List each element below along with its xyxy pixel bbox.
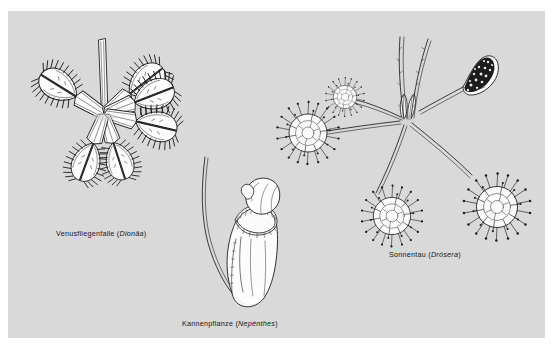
caption-common-name-drosera: Sonnentau ( <box>389 250 431 259</box>
caption-scientific-name-dionaea: Dionäa <box>120 229 144 238</box>
illustration-plate: .ln { fill:none; stroke:#1c1c1c; stroke-… <box>8 11 545 338</box>
botanical-illustration-svg: .ln { fill:none; stroke:#1c1c1c; stroke-… <box>8 11 545 338</box>
sundew-leaf-lower-left <box>361 184 423 247</box>
caption-pitcher-plant: Kannenpflanze (Nepénthes) <box>182 320 278 327</box>
caption-scientific-name-nepenthes: Nepénthes <box>238 319 275 328</box>
caption-close-paren-drosera: ) <box>458 250 461 259</box>
caption-common-name-dionaea: Venusfliegenfalle ( <box>56 229 120 238</box>
pitcher-plant-drawing <box>202 157 279 307</box>
caption-sundew: Sonnentau (Drósera) <box>389 251 461 258</box>
sundew-drawing <box>276 37 531 248</box>
flytrap-upright-blade <box>99 39 109 115</box>
caption-close-paren-nepenthes: ) <box>275 319 278 328</box>
venus-flytrap-drawing <box>26 39 186 192</box>
caption-common-name-nepenthes: Kannenpflanze ( <box>182 319 238 328</box>
sundew-leaf-upper-left <box>325 77 364 117</box>
caption-scientific-name-drosera: Drósera <box>431 250 458 259</box>
sundew-leaf-left <box>276 101 340 165</box>
sundew-dark-leaf <box>419 56 498 114</box>
caption-close-paren-dionaea: ) <box>144 229 147 238</box>
caption-venus-flytrap: Venusfliegenfalle (Dionäa) <box>56 230 146 237</box>
sundew-leaf-lower-right <box>463 172 532 241</box>
figure-root: .ln { fill:none; stroke:#1c1c1c; stroke-… <box>0 0 554 347</box>
